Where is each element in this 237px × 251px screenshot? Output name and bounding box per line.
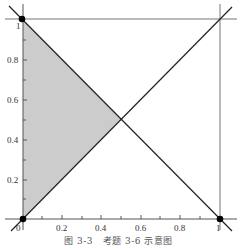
point-0-1	[19, 16, 26, 23]
point-1-0	[217, 216, 224, 223]
point-origin	[20, 216, 27, 223]
x-tick-label-0.4: 0.4	[95, 223, 107, 233]
plot-area: 0 0.2 0.4 0.6 0.8 1 0.2 0.4 0.6 0.8 1	[0, 0, 237, 251]
x-tick-label-0.8: 0.8	[174, 223, 186, 233]
y-tick-label-0.4: 0.4	[7, 135, 19, 145]
y-tick-label-0.2: 0.2	[7, 175, 18, 185]
x-tick-label-1: 1	[216, 223, 221, 233]
shaded-region	[23, 20, 121, 219]
x-tick-label-0.2: 0.2	[56, 223, 67, 233]
y-tick-label-0.6: 0.6	[7, 95, 19, 105]
figure-caption: 图 3-3 考题 3-6 示意图	[0, 234, 237, 247]
y-tick-label-0.8: 0.8	[7, 55, 19, 65]
x-tick-label-0: 0	[16, 223, 21, 233]
x-tick-label-0.6: 0.6	[135, 223, 147, 233]
x-ticks	[42, 215, 200, 219]
y-tick-label-1: 1	[16, 21, 21, 31]
